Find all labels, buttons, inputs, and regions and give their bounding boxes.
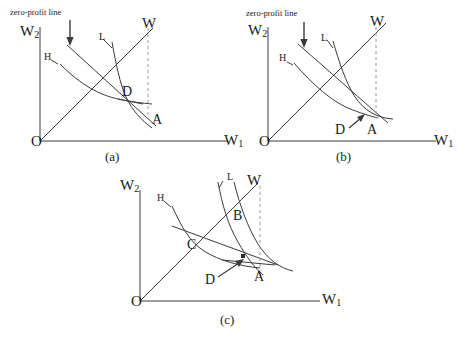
panel-caption-b: (b) bbox=[336, 150, 351, 163]
figure-three-panel-insurance-diagram: zero-profit line W2 W1 O H L W D A (a) bbox=[0, 0, 471, 342]
y-axis-label: W2 bbox=[120, 178, 139, 194]
panel-caption-a: (a) bbox=[105, 150, 119, 163]
zero-profit-arrow-head bbox=[66, 37, 73, 46]
point-label-a: A bbox=[367, 123, 377, 137]
x-axis-label: W1 bbox=[434, 133, 453, 149]
l-leader-line bbox=[219, 181, 223, 188]
curve-label-w: W bbox=[142, 16, 156, 31]
zero-profit-line bbox=[67, 45, 156, 126]
forty-five-degree-line bbox=[40, 28, 153, 141]
h-indifference-curve bbox=[60, 64, 152, 104]
curve-label-h: H bbox=[157, 193, 164, 203]
curve-label-l: L bbox=[321, 33, 327, 43]
h-indifference-curve bbox=[172, 206, 260, 268]
panel-caption-c: (c) bbox=[220, 313, 234, 326]
point-label-d: D bbox=[122, 85, 132, 99]
y-axis-label: W2 bbox=[20, 24, 39, 40]
zero-profit-line-annotation: zero-profit line bbox=[246, 9, 297, 18]
zero-profit-line bbox=[298, 44, 388, 123]
origin-label: O bbox=[259, 134, 270, 149]
h-leader-line bbox=[287, 62, 293, 65]
panel-c: W2 W1 O H L W B C D A (c) bbox=[100, 170, 370, 342]
curve-label-l: L bbox=[227, 172, 233, 182]
h-indifference-curve bbox=[294, 63, 378, 118]
panel-c-graphic bbox=[100, 170, 370, 342]
origin-label: O bbox=[131, 294, 142, 309]
curve-label-h: H bbox=[44, 52, 51, 62]
curve-label-h: H bbox=[279, 53, 286, 63]
origin-label: O bbox=[31, 134, 42, 149]
point-label-a: A bbox=[254, 270, 264, 284]
curve-label-w: W bbox=[370, 14, 384, 29]
point-label-d: D bbox=[335, 123, 345, 137]
point-label-c: C bbox=[187, 238, 196, 252]
h-leader-line bbox=[164, 201, 171, 207]
l-indifference-curve bbox=[333, 41, 393, 119]
panel-b: zero-profit line W2 W1 O H L W D A (b) bbox=[236, 0, 471, 171]
point-label-b: B bbox=[233, 209, 242, 223]
y-axis-label: W2 bbox=[248, 23, 267, 39]
d-pointer-shaft bbox=[218, 263, 239, 277]
l-leader-line bbox=[327, 40, 333, 48]
point-label-a: A bbox=[152, 113, 162, 127]
zero-profit-line-annotation: zero-profit line bbox=[10, 8, 61, 17]
point-label-d: D bbox=[205, 273, 215, 287]
h-leader-line bbox=[51, 60, 58, 64]
x-axis-label: W1 bbox=[322, 292, 341, 308]
marker-square-d bbox=[241, 254, 245, 258]
curve-label-l: L bbox=[99, 32, 105, 42]
curve-label-w: W bbox=[247, 173, 261, 188]
panel-a: zero-profit line W2 W1 O H L W D A (a) bbox=[0, 0, 236, 171]
